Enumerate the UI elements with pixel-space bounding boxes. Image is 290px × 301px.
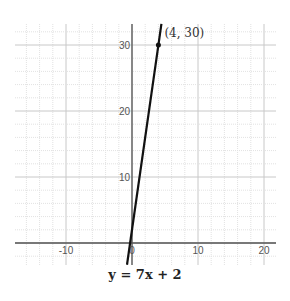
data-point — [156, 43, 161, 48]
x-tick-label: 20 — [258, 245, 270, 256]
y-tick-label: 20 — [119, 106, 131, 117]
x-tick-label: -10 — [59, 245, 74, 256]
equation-label: y = 7x + 2 — [0, 267, 290, 282]
point-label: (4, 30) — [164, 26, 204, 40]
grid — [15, 24, 276, 265]
graph: -1001020102030 (4, 30) — [0, 0, 290, 301]
y-tick-label: 10 — [119, 172, 131, 183]
tick-labels: -1001020102030 — [59, 40, 270, 256]
points: (4, 30) — [156, 26, 204, 48]
x-tick-label: 10 — [192, 245, 204, 256]
y-tick-label: 30 — [119, 40, 131, 51]
